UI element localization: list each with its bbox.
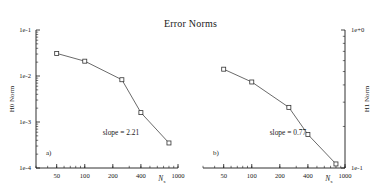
x-tick-label: 1000 [338,172,352,179]
x-tick-label: 200 [275,172,286,179]
data-point-marker [167,141,171,145]
data-point-marker [250,80,254,84]
data-point-marker [222,67,226,71]
x-tick-label: 100 [80,172,91,179]
x-tick-label: 100 [247,172,258,179]
data-point-marker [139,111,143,115]
slope-annotation: slope = 2.21 [103,128,140,137]
y-axis-title: H0 Norm [8,85,16,112]
data-point-marker [287,105,291,109]
x-tick-label: 400 [303,172,314,179]
x-axis-title: Nx [157,174,166,184]
data-point-marker [83,59,87,63]
y-tick-label: 1e-1 [351,164,363,171]
data-point-marker [306,132,310,136]
x-tick-label: 50 [220,172,227,179]
error-norms-figure: Error Norms 1e-11e-21e-31e-4501002004001… [0,0,381,194]
panel-tag: a) [46,149,52,157]
x-axis-title-sub: x [163,179,166,184]
data-point-marker [334,162,338,166]
data-series-line [224,69,336,164]
panel-b: 1e+01e-1501002004001000slope = 0.77b)NxH… [191,0,381,194]
y-tick-label: 1e-4 [19,164,31,171]
data-point-marker [55,51,59,55]
slope-annotation: slope = 0.77 [270,128,307,137]
x-tick-label: 200 [108,172,119,179]
panel-a: 1e-11e-21e-31e-4501002004001000slope = 2… [0,0,190,194]
data-point-marker [120,78,124,82]
x-tick-label: 400 [136,172,147,179]
panel-a-plot: 1e-11e-21e-31e-4501002004001000slope = 2… [0,0,190,194]
panel-b-plot: 1e+01e-1501002004001000slope = 0.77b)NxH… [191,0,381,194]
x-tick-label: 1000 [171,172,185,179]
y-tick-label: 1e-1 [19,26,31,33]
x-tick-label: 50 [53,172,60,179]
y-tick-label: 1e-3 [19,118,31,125]
x-axis-title-sub: x [330,179,333,184]
y-axis-title: H1 Norm [363,85,371,112]
panel-tag: b) [213,149,220,157]
x-axis-title: Nx [324,174,333,184]
y-tick-label: 1e+0 [351,26,365,33]
y-tick-label: 1e-2 [19,72,31,79]
